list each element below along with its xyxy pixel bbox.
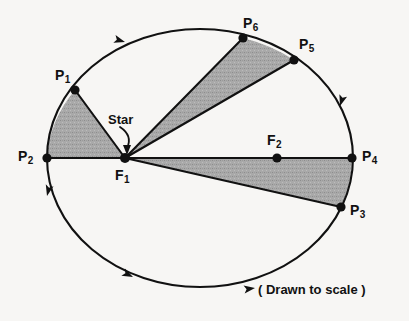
point-marker-P4 [347,153,356,162]
label-F2: F2 [267,133,281,147]
label-P3: P3 [350,203,365,217]
orbit-direction-arrow-top-left [113,35,126,46]
point-marker-P5 [289,55,298,64]
figure-caption: ( Drawn to scale ) [258,283,366,296]
label-P6: P6 [243,16,258,30]
label-P5: P5 [299,37,314,51]
focus-marker-F1 [120,153,130,163]
point-marker-P6 [238,33,247,42]
orbit-direction-arrow-bottom-right [244,284,256,293]
label-F1: F1 [115,168,129,182]
focus-marker-F2 [272,153,281,162]
point-marker-P3 [336,202,345,211]
orbit-diagram: P1 P2 P3 P4 P5 P6 F1 F2 Star ( Drawn to … [0,0,409,321]
label-P2: P2 [18,149,33,163]
star-pointer-arrow [120,127,131,155]
label-P1: P1 [55,68,70,82]
shaded-sectors [47,38,352,207]
star-label: Star [108,113,133,126]
label-P4: P4 [362,149,377,163]
orbit-diagram-canvas [0,0,409,321]
point-marker-P2 [42,153,51,162]
point-marker-P1 [70,85,79,94]
